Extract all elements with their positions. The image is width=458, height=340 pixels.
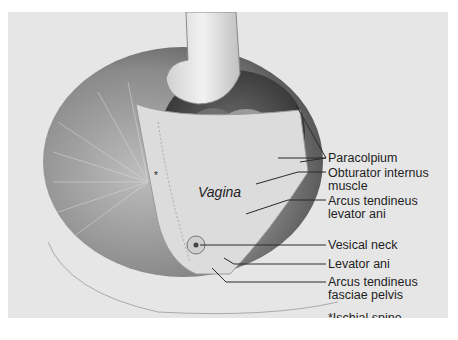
illustration-plate: Vagina * Paracolpium Obturator internus … xyxy=(8,12,448,318)
label-arcus-fasciae-2: fasciae pelvis xyxy=(328,289,403,302)
label-arcus-levator-2: levator ani xyxy=(328,208,386,221)
vagina-label: Vagina xyxy=(198,184,241,200)
label-obturator-internus-2: muscle xyxy=(328,180,368,193)
label-paracolpium: Paracolpium xyxy=(328,152,397,165)
label-levator-ani: Levator ani xyxy=(328,258,390,271)
anatomy-drawing xyxy=(8,12,448,318)
footnote-ischial-spine: *Ischial spine xyxy=(328,312,402,318)
ischial-spine-marker: * xyxy=(154,170,158,181)
label-vesical-neck: Vesical neck xyxy=(328,239,397,252)
